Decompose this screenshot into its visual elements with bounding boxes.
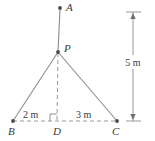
point-P (56, 50, 60, 54)
label-point-D: D (52, 125, 61, 137)
label-point-A: A (65, 1, 73, 13)
measurement-label-dc: 3 m (76, 109, 92, 120)
dimension-label-height: 5 m (125, 57, 141, 68)
segment-mast-AP (58, 9, 60, 52)
dimension-arrowhead-up-icon (130, 13, 135, 19)
dimension-arrowhead-down-icon (130, 114, 135, 120)
geometry-diagram-canvas: A P B D C 2 m 3 m 5 m (0, 0, 155, 141)
point-C (115, 119, 119, 123)
measurement-label-bd: 2 m (23, 109, 39, 120)
label-point-B: B (8, 125, 15, 137)
point-B (11, 119, 15, 123)
right-angle-marker-at-D (50, 114, 57, 121)
label-point-P: P (63, 42, 71, 54)
point-A (58, 6, 62, 10)
segment-altitude-PD (57, 53, 58, 121)
geometry-diagram-svg: A P B D C 2 m 3 m 5 m (0, 0, 155, 141)
label-point-C: C (112, 125, 120, 137)
